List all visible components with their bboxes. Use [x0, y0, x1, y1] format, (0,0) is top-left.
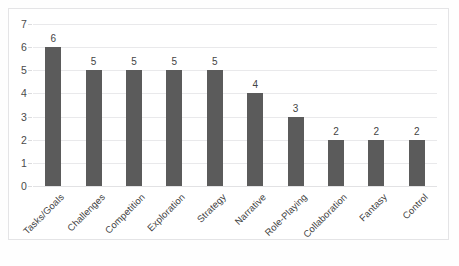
bar [45, 47, 61, 186]
y-tick-mark [28, 186, 32, 187]
bar [126, 70, 142, 186]
gridline [33, 24, 437, 25]
bar [86, 70, 102, 186]
gridline [33, 186, 437, 187]
bar [207, 70, 223, 186]
plot-area: 6555543222 [33, 24, 437, 186]
bar-value-label: 5 [79, 57, 109, 67]
y-tick-label: 5 [21, 65, 27, 76]
bar [409, 140, 425, 186]
y-tick-label: 4 [21, 88, 27, 99]
bar [247, 93, 263, 186]
y-tick-mark [28, 47, 32, 48]
bar-value-label: 6 [38, 34, 68, 44]
y-tick-mark [28, 93, 32, 94]
bar-value-label: 3 [281, 104, 311, 114]
bar [288, 117, 304, 186]
y-tick-mark [28, 70, 32, 71]
bar [328, 140, 344, 186]
y-tick-label: 6 [21, 42, 27, 53]
bar-value-label: 4 [240, 80, 270, 90]
bar-chart-figure: 01234567 6555543222 Tasks/GoalsChallenge… [0, 0, 459, 266]
bar-value-label: 5 [200, 57, 230, 67]
y-tick-label: 7 [21, 19, 27, 30]
bar-value-label: 2 [321, 127, 351, 137]
bar-value-label: 5 [159, 57, 189, 67]
bar-value-label: 5 [119, 57, 149, 67]
bar-value-label: 2 [361, 127, 391, 137]
y-axis: 01234567 [8, 24, 27, 186]
y-tick-mark [28, 140, 32, 141]
y-tick-mark [28, 163, 32, 164]
bar [166, 70, 182, 186]
bar-value-label: 2 [402, 127, 432, 137]
gridline [33, 47, 437, 48]
y-tick-label: 3 [21, 111, 27, 122]
y-tick-label: 0 [21, 181, 27, 192]
y-tick-mark [28, 24, 32, 25]
x-axis: Tasks/GoalsChallengesCompetitionExplorat… [33, 190, 437, 238]
y-tick-label: 2 [21, 134, 27, 145]
bar [368, 140, 384, 186]
y-tick-mark [28, 117, 32, 118]
y-tick-label: 1 [21, 158, 27, 169]
